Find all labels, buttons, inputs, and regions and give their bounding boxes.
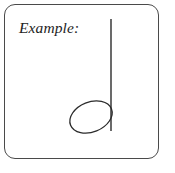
example-label: Example:	[19, 19, 79, 36]
example-figure: Example:	[0, 0, 175, 173]
